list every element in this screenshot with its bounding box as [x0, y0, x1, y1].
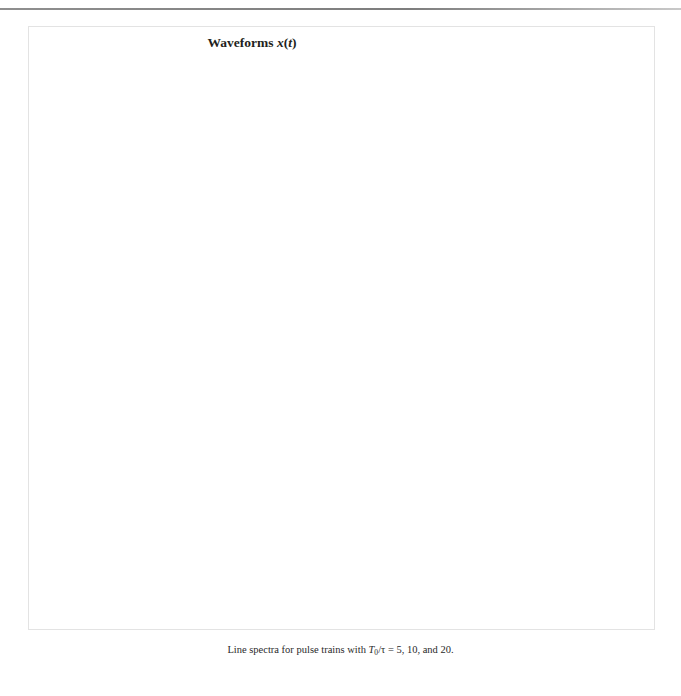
- waveforms-header: Waveforms x(t): [142, 35, 362, 51]
- caption-text: Line spectra for pulse trains with T0/τ …: [227, 644, 453, 655]
- figure-frame: Waveforms x(t): [28, 26, 655, 630]
- figure-caption: Line spectra for pulse trains with T0/τ …: [28, 644, 653, 657]
- page-top-rule: [0, 8, 681, 10]
